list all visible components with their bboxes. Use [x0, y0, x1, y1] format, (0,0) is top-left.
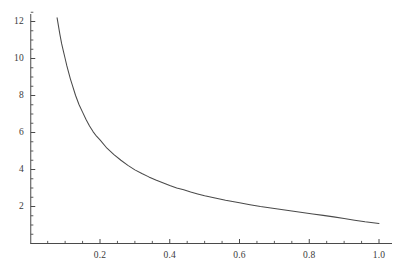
x-axis-major-ticks — [100, 239, 379, 244]
x-tick-label: 0.8 — [295, 251, 323, 261]
plot-canvas — [0, 0, 398, 271]
y-tick-label: 4 — [0, 165, 24, 175]
axes-group — [30, 12, 392, 243]
x-tick-label: 0.6 — [226, 251, 254, 261]
chart-figure: 0.20.40.60.81.0 24681012 — [0, 0, 398, 271]
y-tick-label: 6 — [0, 128, 24, 138]
x-tick-label: 0.2 — [86, 251, 114, 261]
y-tick-label: 2 — [0, 202, 24, 212]
data-series-group — [57, 18, 379, 224]
x-tick-label: 1.0 — [365, 251, 393, 261]
y-tick-label: 8 — [0, 91, 24, 101]
y-tick-label: 10 — [0, 54, 24, 64]
x-tick-label: 0.4 — [156, 251, 184, 261]
y-tick-label: 12 — [0, 17, 24, 27]
data-line-curve — [57, 18, 379, 224]
